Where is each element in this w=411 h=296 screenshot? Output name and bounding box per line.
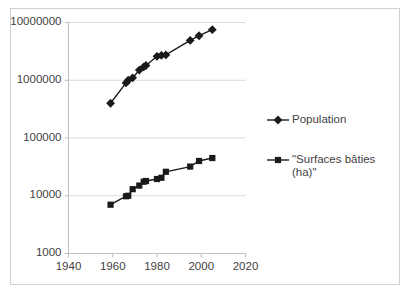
data-series-layer [106, 25, 217, 207]
legend-entry-surfaces-baties[interactable] [267, 157, 289, 163]
y-axis-tick-label: 1000000 [17, 73, 62, 85]
series-surfaces-baties [107, 155, 215, 208]
series-line [111, 30, 213, 104]
data-point-square [158, 175, 164, 181]
legend-markers [267, 116, 289, 163]
data-point-diamond [195, 31, 204, 40]
data-point-diamond [186, 36, 195, 45]
series-population [106, 25, 217, 107]
y-axis-tick-label: 10000 [30, 188, 62, 200]
data-point-square [275, 157, 281, 163]
y-axis-tick-label: 1000 [36, 246, 62, 258]
data-point-square [130, 186, 136, 192]
chart-canvas [0, 0, 411, 296]
data-point-square [125, 193, 131, 199]
data-point-square [196, 158, 202, 164]
data-point-square [143, 178, 149, 184]
x-axis-tick-label: 2020 [216, 260, 276, 272]
legend-label-population[interactable]: Population [292, 113, 346, 127]
data-point-diamond [208, 25, 217, 34]
data-point-diamond [274, 116, 283, 125]
data-point-square [107, 202, 113, 208]
data-point-square [163, 169, 169, 175]
y-axis-tick-label: 100000 [23, 131, 61, 143]
data-point-square [187, 163, 193, 169]
legend-entry-population[interactable] [267, 116, 289, 125]
legend-label-surfaces-baties[interactable]: "Surfaces bâties (ha)" [292, 153, 375, 180]
data-point-square [209, 155, 215, 161]
y-axis-tick-label: 10000000 [10, 15, 61, 27]
